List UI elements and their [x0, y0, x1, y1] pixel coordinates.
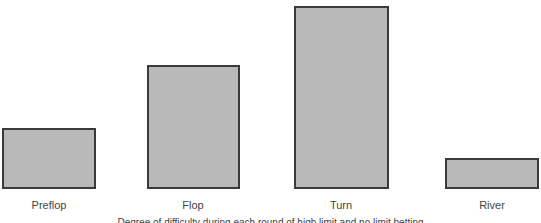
category-label-preflop: Preflop	[0, 199, 99, 211]
chart-caption: Degree of difficulty during each round o…	[0, 217, 541, 223]
bar-flop	[147, 65, 240, 189]
bar-river	[445, 158, 539, 189]
bar-turn	[294, 6, 389, 189]
category-label-flop: Flop	[143, 199, 243, 211]
category-label-river: River	[442, 199, 541, 211]
category-label-turn: Turn	[291, 199, 391, 211]
bar-preflop	[2, 128, 96, 189]
